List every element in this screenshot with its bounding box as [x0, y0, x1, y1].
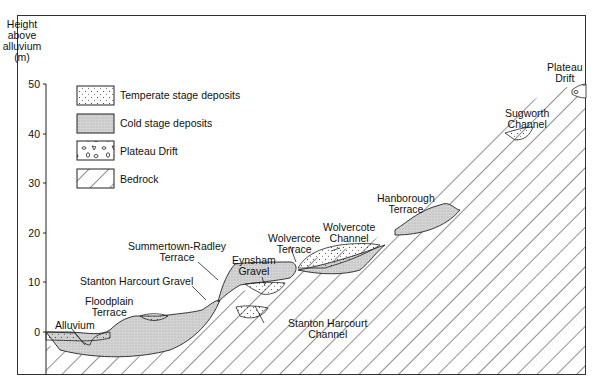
tick-30: 30 [18, 177, 40, 189]
label-sugworth: Sugworth Channel [505, 108, 549, 130]
label-wolvercote-terrace: Wolvercote Terrace [268, 233, 320, 255]
label-stanton-channel: Stanton Harcourt Channel [288, 318, 367, 340]
tick-0: 0 [18, 326, 40, 338]
label-summertown: Summertown-Radley Terrace [128, 241, 226, 263]
legend-cold: Cold stage deposits [120, 117, 212, 129]
label-line: Channel [323, 233, 375, 244]
label-line: Drift [547, 73, 583, 84]
label-line: Channel [505, 119, 549, 130]
label-line: Terrace [268, 244, 320, 255]
legend-swatches [77, 86, 114, 188]
label-hanborough: Hanborough Terrace [377, 193, 435, 215]
tick-10: 10 [18, 276, 40, 288]
label-stanton-gravel: Stanton Harcourt Gravel [80, 276, 193, 287]
label-line: Terrace [377, 204, 435, 215]
y-axis [43, 84, 46, 375]
legend-bedrock: Bedrock [120, 173, 159, 185]
legend-plateau: Plateau Drift [120, 145, 178, 157]
label-wolvercote-channel: Wolvercote Channel [323, 222, 375, 244]
y-axis-title: Height above alluvium (m) [2, 19, 42, 63]
label-line: Gravel [232, 266, 276, 277]
tick-50: 50 [18, 78, 40, 90]
label-plateau-drift: Plateau Drift [547, 62, 583, 84]
label-line: Terrace [128, 252, 226, 263]
label-line: Terrace [85, 307, 133, 318]
axis-title-line: (m) [2, 52, 42, 63]
label-alluvium: Alluvium [55, 320, 95, 331]
tick-20: 20 [18, 227, 40, 239]
label-eynsham: Eynsham Gravel [232, 255, 276, 277]
label-line: Channel [288, 329, 367, 340]
legend-temperate: Temperate stage deposits [120, 89, 240, 101]
label-floodplain: Floodplain Terrace [85, 296, 133, 318]
tick-40: 40 [18, 128, 40, 140]
